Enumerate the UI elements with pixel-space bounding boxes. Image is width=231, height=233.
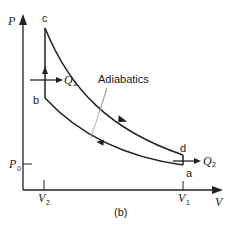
adiabat-cd — [45, 28, 183, 155]
q2-arrowhead-icon — [194, 158, 201, 164]
svg-text:2: 2 — [46, 199, 50, 206]
x-axis-label: V — [215, 195, 224, 209]
caption: (b) — [114, 206, 127, 218]
down-arrow-icon — [118, 115, 128, 123]
v2-label: V 2 — [38, 191, 50, 206]
point-b-label: b — [33, 94, 39, 106]
up-arrow-icon — [42, 66, 48, 74]
x-axis-arrow-icon — [212, 186, 223, 194]
svg-text:1: 1 — [73, 80, 77, 87]
pv-diagram-svg: P V c b d a Q 1 Q 2 P 0 V 2 V 1 Adiabati… — [0, 0, 231, 233]
svg-text:Q: Q — [203, 154, 212, 168]
point-c-label: c — [42, 12, 48, 24]
adiabat-ab — [45, 98, 183, 165]
y-axis-arrow-icon — [19, 14, 27, 25]
q2-label: Q 2 — [203, 154, 216, 168]
q1-arrowhead-icon — [56, 77, 63, 83]
svg-text:P: P — [8, 157, 17, 171]
q1-label: Q 1 — [64, 73, 77, 87]
y-axis-label: P — [7, 14, 16, 28]
svg-text:2: 2 — [212, 161, 216, 168]
point-a-label: a — [186, 167, 193, 179]
p0-label: P 0 — [8, 157, 21, 172]
svg-text:1: 1 — [186, 199, 190, 206]
svg-text:Q: Q — [64, 73, 73, 87]
point-d-label: d — [180, 142, 186, 154]
v1-label: V 1 — [178, 191, 190, 206]
pv-diagram: P V c b d a Q 1 Q 2 P 0 V 2 V 1 Adiabati… — [0, 0, 231, 233]
adiabatics-label: Adiabatics — [98, 73, 149, 85]
x-axis — [23, 186, 223, 194]
svg-text:0: 0 — [17, 165, 21, 172]
